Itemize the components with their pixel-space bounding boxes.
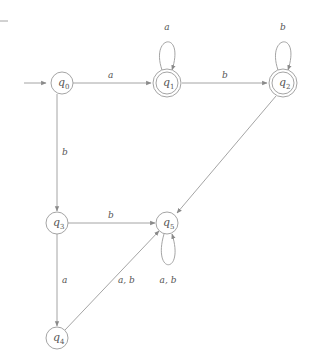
label-q3-q5: b xyxy=(108,210,114,220)
svg-text:5: 5 xyxy=(170,223,174,231)
state-q2: q 2 xyxy=(269,69,297,97)
label-q4-q5: a, b xyxy=(118,275,135,285)
label-q1-q2: b xyxy=(222,70,228,80)
state-q3: q 3 xyxy=(46,212,68,234)
label-q0-q1: a xyxy=(108,70,113,80)
state-q0: q 0 xyxy=(51,72,73,94)
label-q2-q2: b xyxy=(280,22,286,32)
svg-text:q: q xyxy=(53,216,60,229)
svg-text:q: q xyxy=(58,76,65,89)
label-q3-q4: a xyxy=(62,275,67,285)
state-q5: q 5 xyxy=(156,212,178,234)
label-q0-q3: b xyxy=(62,147,68,157)
svg-text:4: 4 xyxy=(60,338,65,346)
label-q5-q5: a, b xyxy=(160,275,177,285)
edge-q2-q2 xyxy=(275,42,290,70)
label-q1-q1: a xyxy=(164,22,169,32)
edge-q2-q5 xyxy=(177,96,276,213)
edge-q5-q5 xyxy=(161,234,175,265)
svg-text:2: 2 xyxy=(286,83,290,91)
svg-text:3: 3 xyxy=(60,223,64,231)
svg-text:q: q xyxy=(163,216,170,229)
edge-q1-q1 xyxy=(159,42,174,70)
svg-text:1: 1 xyxy=(170,83,174,91)
state-q4: q 4 xyxy=(46,327,68,349)
svg-text:q: q xyxy=(163,76,170,89)
edge-q4-q5 xyxy=(65,231,159,330)
svg-text:q: q xyxy=(53,331,60,344)
automaton-diagram: a a b b b b a a, b a, b q 0 q 1 q 2 q 3 … xyxy=(0,0,315,363)
svg-text:0: 0 xyxy=(65,83,69,91)
svg-text:q: q xyxy=(279,76,286,89)
state-q1: q 1 xyxy=(153,69,181,97)
